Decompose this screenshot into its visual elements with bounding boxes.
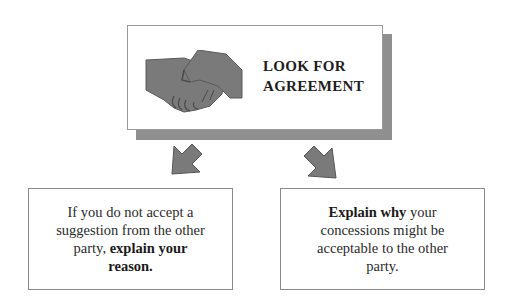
explain-concessions-text: Explain why your concessions might be ac…	[309, 203, 456, 275]
explain-concessions-box: Explain why your concessions might be ac…	[280, 188, 485, 290]
arrow-down-right-icon	[302, 144, 338, 180]
box-title: LOOK FOR AGREEMENT	[263, 56, 364, 96]
title-line-1: LOOK FOR	[263, 56, 364, 76]
explain-reason-text: If you do not accept a suggestion from t…	[48, 203, 213, 275]
arrow-down-left-icon	[170, 142, 204, 176]
explain-reason-box: If you do not accept a suggestion from t…	[28, 188, 233, 290]
handshake-icon	[144, 50, 244, 114]
look-for-agreement-box: LOOK FOR AGREEMENT	[127, 25, 383, 130]
title-line-2: AGREEMENT	[263, 76, 364, 96]
